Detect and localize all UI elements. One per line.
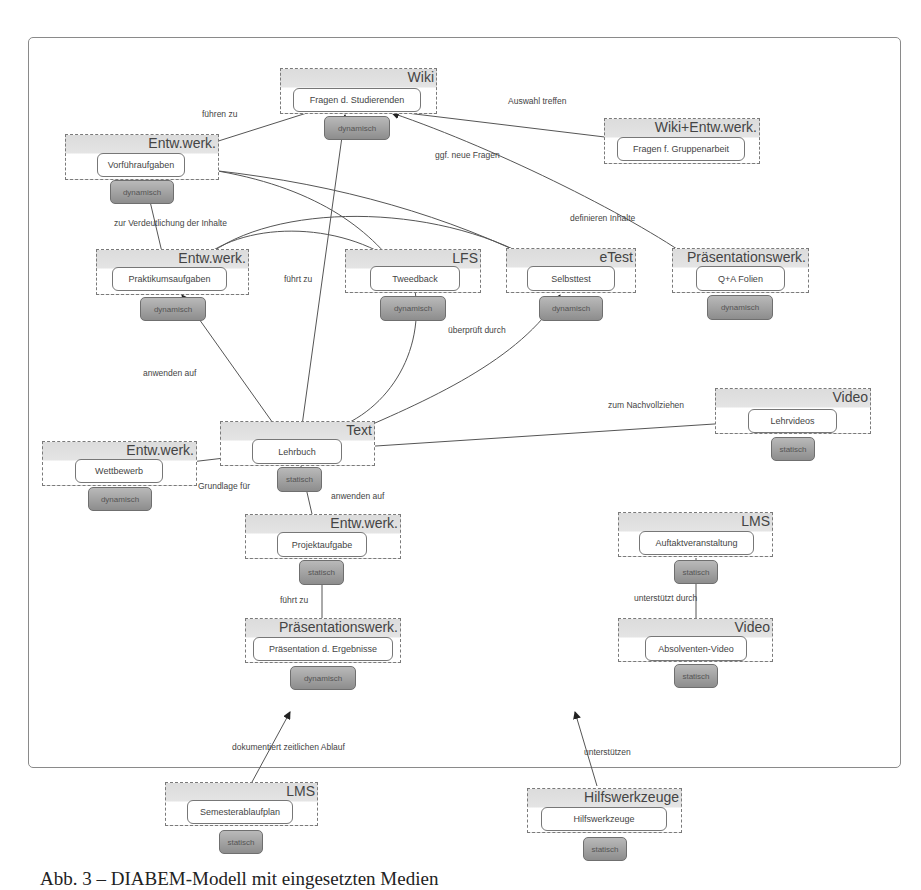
node-wettbewerb[interactable]: Wettbewerb bbox=[75, 459, 163, 483]
edge-label-auswahl-treffen: Auswahl treffen bbox=[508, 96, 566, 106]
node-vorfuehraufgaben[interactable]: Vorführaufgaben bbox=[97, 153, 185, 177]
node-tweedback[interactable]: Tweedback bbox=[370, 266, 460, 291]
node-projektaufgabe[interactable]: Projektaufgabe bbox=[277, 532, 367, 557]
group-label: Video bbox=[734, 619, 770, 636]
node-qa-folien[interactable]: Q+A Folien bbox=[696, 266, 785, 291]
badge-statisch: statisch bbox=[674, 664, 718, 688]
group-label: Entw.werk. bbox=[330, 515, 398, 532]
badge-statisch: statisch bbox=[277, 467, 322, 492]
edge-label-anwenden-auf-1: anwenden auf bbox=[143, 368, 196, 378]
edge-label-unterstuetzt-durch: unterstützt durch bbox=[634, 593, 697, 603]
node-lehrvideos[interactable]: Lehrvideos bbox=[748, 409, 837, 433]
node-selbsttest[interactable]: Selbsttest bbox=[527, 266, 615, 291]
badge-dynamisch: dynamisch bbox=[110, 180, 174, 204]
badge-dynamisch: dynamisch bbox=[539, 296, 603, 321]
node-semesterablaufplan[interactable]: Semesterablaufplan bbox=[187, 800, 293, 824]
badge-dynamisch: dynamisch bbox=[140, 297, 206, 321]
figure-caption: Abb. 3 – DIABEM-Modell mit eingesetzten … bbox=[40, 868, 438, 890]
node-fragen-studierende[interactable]: Fragen d. Studierenden bbox=[293, 88, 421, 112]
group-label: Wiki bbox=[408, 69, 434, 86]
group-label: Präsentationswerk. bbox=[279, 619, 398, 636]
badge-dynamisch: dynamisch bbox=[290, 666, 356, 690]
node-lehrbuch[interactable]: Lehrbuch bbox=[252, 439, 342, 464]
badge-dynamisch: dynamisch bbox=[88, 487, 152, 511]
edge-label-anwenden-auf-2: anwenden auf bbox=[331, 491, 384, 501]
group-label: eTest bbox=[600, 249, 633, 266]
edge-label-zum-nachvollziehen: zum Nachvollziehen bbox=[608, 400, 684, 410]
group-label: Text bbox=[346, 422, 372, 439]
badge-statisch: statisch bbox=[299, 560, 344, 585]
edge-label-fuehrt-zu-2: führt zu bbox=[280, 595, 308, 605]
badge-dynamisch: dynamisch bbox=[707, 295, 773, 320]
group-label: Präsentationswerk. bbox=[687, 249, 806, 266]
node-fragen-gruppenarbeit[interactable]: Fragen f. Gruppenarbeit bbox=[617, 137, 745, 161]
group-label: Hilfswerkzeuge bbox=[584, 789, 679, 806]
edge-label-definieren-inhalte: definieren Inhalte bbox=[570, 213, 635, 223]
node-hilfswerkzeuge[interactable]: Hilfswerkzeuge bbox=[541, 807, 667, 831]
group-label: Wiki+Entw.werk. bbox=[655, 119, 757, 136]
edge-label-zur-verdeutlichung: zur Verdeutlichung der Inhalte bbox=[114, 218, 227, 228]
group-label: Video bbox=[832, 389, 868, 406]
group-label: Entw.werk. bbox=[126, 442, 194, 459]
node-praktikumsaufgaben[interactable]: Praktikumsaufgaben bbox=[112, 267, 227, 291]
badge-statisch: statisch bbox=[219, 830, 263, 854]
edge-label-fuehren-zu: führen zu bbox=[202, 109, 237, 119]
badge-statisch: statisch bbox=[583, 837, 627, 861]
badge-statisch: statisch bbox=[674, 560, 718, 584]
badge-statisch: statisch bbox=[771, 437, 815, 461]
node-absolventen-video[interactable]: Absolventen-Video bbox=[645, 636, 747, 661]
edge-label-ggf-neue-fragen: ggf. neue Fragen bbox=[435, 150, 500, 160]
badge-dynamisch: dynamisch bbox=[324, 116, 390, 140]
edge-label-fuehrt-zu-1: führt zu bbox=[284, 274, 312, 284]
edge-label-ueberprueft-durch: überprüft durch bbox=[448, 325, 506, 335]
node-auftaktveranstaltung[interactable]: Auftaktveranstaltung bbox=[639, 531, 754, 555]
edge-label-dokumentiert: dokumentiert zeitlichen Ablauf bbox=[232, 742, 345, 752]
badge-dynamisch: dynamisch bbox=[380, 296, 446, 321]
group-label: LMS bbox=[286, 783, 315, 800]
edge-label-unterstuetzen: unterstützen bbox=[584, 747, 631, 757]
group-label: LMS bbox=[741, 513, 770, 530]
node-praesentation-ergebnisse[interactable]: Präsentation d. Ergebnisse bbox=[253, 637, 393, 661]
edge-label-grundlage-fuer: Grundlage für bbox=[198, 481, 250, 491]
group-label: LFS bbox=[452, 250, 478, 267]
group-label: Entw.werk. bbox=[178, 250, 246, 267]
group-label: Entw.werk. bbox=[148, 135, 216, 152]
